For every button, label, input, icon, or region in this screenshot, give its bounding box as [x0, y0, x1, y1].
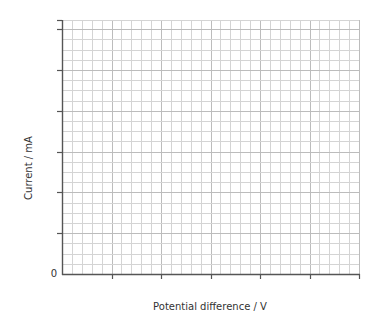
x-axis-label: Potential difference / V — [153, 301, 267, 312]
origin-label: 0 — [51, 268, 57, 279]
grid — [62, 20, 360, 275]
y-axis-label: Current / mA — [23, 136, 34, 200]
graph-paper-chart: 0 Potential difference / V Current / mA — [0, 0, 374, 315]
